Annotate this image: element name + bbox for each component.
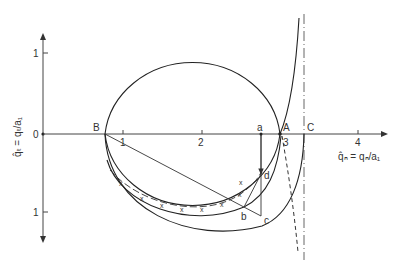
descending-branch-curve bbox=[282, 136, 298, 252]
point-c-label: c bbox=[264, 215, 269, 226]
svg-text:x: x bbox=[160, 202, 164, 209]
outer-arc-curve bbox=[105, 134, 304, 231]
x-tick-2: 2 bbox=[198, 137, 204, 148]
point-A-label: A bbox=[283, 122, 290, 133]
diagram: 1 0 1 q̂ₜ = qₜ/a₁ 1 2 3 4 q̂ₙ = qₙ/a₁ x … bbox=[0, 0, 398, 272]
y-tick-0: 0 bbox=[33, 129, 39, 140]
point-a-label: a bbox=[257, 122, 263, 133]
point-b-label: b bbox=[241, 211, 247, 222]
svg-text:x: x bbox=[140, 195, 144, 202]
svg-text:x: x bbox=[239, 179, 243, 186]
marked-curve bbox=[110, 170, 262, 207]
svg-text:x: x bbox=[200, 206, 204, 213]
rising-branch-curve bbox=[280, 18, 299, 134]
svg-text:x: x bbox=[180, 206, 184, 213]
x-tick-4: 4 bbox=[355, 137, 361, 148]
y-tick-1-up: 1 bbox=[33, 48, 39, 59]
point-B-label: B bbox=[93, 122, 100, 133]
y-axis-label: q̂ₜ = qₜ/a₁ bbox=[12, 116, 23, 157]
point-d-label: d bbox=[264, 170, 270, 181]
svg-text:x: x bbox=[238, 191, 242, 198]
y-tick-1-down: 1 bbox=[33, 207, 39, 218]
x-axis-label: q̂ₙ = qₙ/a₁ bbox=[338, 151, 381, 162]
y-axis bbox=[41, 36, 48, 240]
x-markers: x x x x x x x x bbox=[119, 179, 243, 213]
line-B-c bbox=[105, 134, 261, 216]
point-C-label: C bbox=[307, 122, 314, 133]
svg-text:x: x bbox=[119, 180, 123, 187]
inner-arc-curve bbox=[107, 136, 281, 216]
svg-text:x: x bbox=[220, 201, 224, 208]
